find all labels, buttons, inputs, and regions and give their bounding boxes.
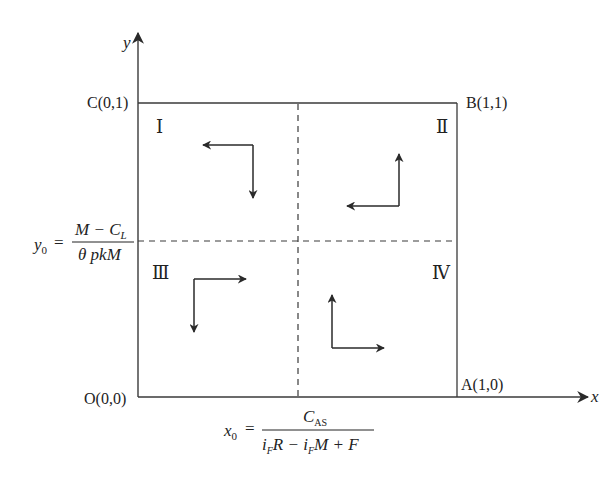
y0-numerator: M − C [74,220,121,239]
phase-diagram: y x C(0,1) B(1,1) O(0,0) A(1,0) Ⅰ Ⅱ Ⅲ Ⅳ … [0,0,615,480]
quadrant-4-arrows [332,295,384,348]
x0-lhs-sub: 0 [232,430,238,442]
x0-numerator: C [303,407,315,426]
svg-text:y0: y0 [32,235,48,256]
x0-formula: x0 = CAS iFR − iFM + F [223,407,374,456]
quadrant-1-label: Ⅰ [156,117,163,137]
svg-text:x0: x0 [223,421,238,442]
point-c-label-full: C(0,1) [87,94,128,112]
quadrant-2-arrows [347,154,399,206]
svg-text:M − CL: M − CL [74,220,127,241]
x0-numerator-sub: AS [314,417,327,428]
x-axis-label: x [590,387,599,406]
point-a-label: A(1,0) [461,376,503,394]
quadrant-3-arrows [194,279,246,332]
y0-formula: y0 = M − CL θ pkM [32,220,134,264]
quadrant-3-label: Ⅲ [152,263,169,283]
point-origin-label: O(0,0) [84,390,126,408]
y0-numerator-sub: L [119,229,126,241]
y0-equals: = [54,233,64,252]
y0-denominator: θ pkM [78,245,122,264]
quadrant-1-arrows [203,145,253,198]
x0-equals: = [245,419,255,438]
point-b-label: B(1,1) [466,94,507,112]
quadrant-4-label: Ⅳ [432,263,451,283]
quadrant-2-label: Ⅱ [436,117,448,137]
y0-lhs-sub: 0 [42,244,48,256]
svg-text:CAS: CAS [303,407,327,428]
x0-denominator: iFR − iFM + F [262,435,359,456]
y-axis-label: y [121,33,131,52]
y0-lhs: y [32,235,42,254]
